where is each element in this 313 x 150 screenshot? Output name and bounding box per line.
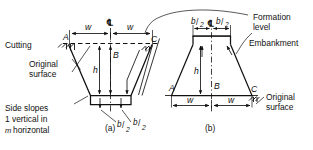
embankment-centre-height-label: B: [214, 81, 220, 91]
cutting-centreline-symbol: ℄: [106, 18, 113, 28]
subfigure-caption-b: (b): [205, 123, 215, 133]
embankment-formation-leader: [202, 46, 232, 57]
original-surface-right-line1: Original: [266, 92, 295, 102]
side-slopes-line3: m horizontal: [5, 125, 49, 135]
cutting-b-half-right-slash: /: [138, 118, 141, 128]
embankment-point-c-label: C: [251, 84, 258, 94]
formation-level-line2: level: [253, 22, 270, 32]
side-slopes-line3-rest: horizontal: [13, 125, 49, 135]
cutting-w-right-label: w: [127, 22, 134, 32]
cutting-b-half-left-slash: /: [122, 120, 125, 130]
embankment-b-half-right-denominator: 2: [224, 21, 229, 28]
embankment-w-right-label: w: [228, 95, 235, 105]
formation-level-leader: [145, 10, 252, 54]
side-slopes-leader: [74, 96, 88, 104]
cutting-right-inner-arrow: [127, 50, 140, 94]
cutting-b-half-leaders: [100, 98, 131, 122]
embankment-w-left-label: w: [187, 95, 194, 105]
side-slopes-line1: Side slopes: [5, 103, 48, 113]
cutting-point-c-label: C: [151, 34, 158, 44]
embankment-b-half-right-slash: /: [221, 17, 224, 27]
original-surface-left-line1: Original: [29, 59, 58, 69]
original-surface-right-line2: surface: [266, 102, 294, 112]
embankment-h-label: h: [194, 66, 199, 76]
cutting-b-half-label-left: b / 2: [117, 120, 130, 133]
cutting-side-slope-guides: [139, 39, 160, 96]
cutting-point-a-label: A: [62, 32, 69, 42]
formation-level-line1: Formation: [253, 12, 291, 22]
cutting-centre-depth-label: B: [113, 50, 119, 60]
cutting-b-half-left-denominator: 2: [125, 126, 130, 133]
side-slopes-line2: 1 vertical in: [5, 114, 48, 124]
cutting-b-half-right-denominator: 2: [141, 124, 146, 131]
cutting-w-right-dimension: [113, 30, 153, 45]
subfigure-caption-a: (a): [105, 123, 115, 133]
cutting-w-left-label: w: [85, 22, 92, 32]
embankment-b-half-left-slash: /: [196, 17, 199, 27]
embankment-point-a-label: A: [168, 83, 175, 93]
embankment-toe-hatch-marks: [249, 97, 260, 103]
cutting-h-label: h: [93, 65, 98, 75]
original-surface-left-line2: surface: [29, 69, 57, 79]
cutting-left-hatch-marks: [58, 44, 75, 51]
embankment-b-half-label-right: b / 2: [216, 17, 229, 28]
side-slopes-m-symbol: m: [5, 126, 11, 135]
embankment-title-label: Embankment: [249, 38, 299, 48]
engineering-cross-section-figure: ℄ w w A C h: [0, 0, 313, 150]
cutting-title-label: Cutting: [5, 40, 32, 50]
figure-canvas: ℄ w w A C h: [0, 0, 313, 150]
cutting-b-half-label-right: b / 2: [133, 118, 146, 131]
embankment-b-half-left-denominator: 2: [199, 21, 204, 28]
embankment-centreline-symbol: ℄: [207, 19, 214, 29]
